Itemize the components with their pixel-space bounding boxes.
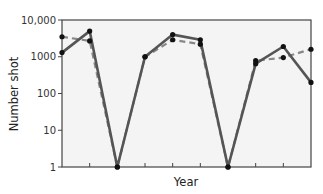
data-point (87, 38, 92, 43)
data-point (87, 28, 92, 33)
data-point (281, 55, 286, 60)
data-point (59, 34, 64, 39)
y-axis-title: Number shot (7, 56, 21, 131)
data-point (198, 37, 203, 42)
plot-area (62, 20, 311, 167)
y-tick-label: 1 (50, 162, 56, 173)
data-point (59, 50, 64, 55)
data-point (281, 44, 286, 49)
data-point (308, 47, 313, 52)
y-tick-label: 1000 (31, 51, 56, 62)
y-axis: 110100100010,000 (21, 15, 62, 173)
data-point (225, 164, 230, 169)
y-tick-label: 10,000 (21, 15, 56, 26)
x-axis-title: Year (173, 175, 199, 189)
y-tick-label: 10 (43, 125, 56, 136)
data-point (308, 80, 313, 85)
data-point (142, 54, 147, 59)
data-point (253, 61, 258, 66)
line-chart: 110100100010,000 Year Number shot (0, 0, 323, 194)
data-point (115, 164, 120, 169)
y-tick-label: 100 (37, 88, 56, 99)
data-point (170, 32, 175, 37)
data-point (170, 37, 175, 42)
